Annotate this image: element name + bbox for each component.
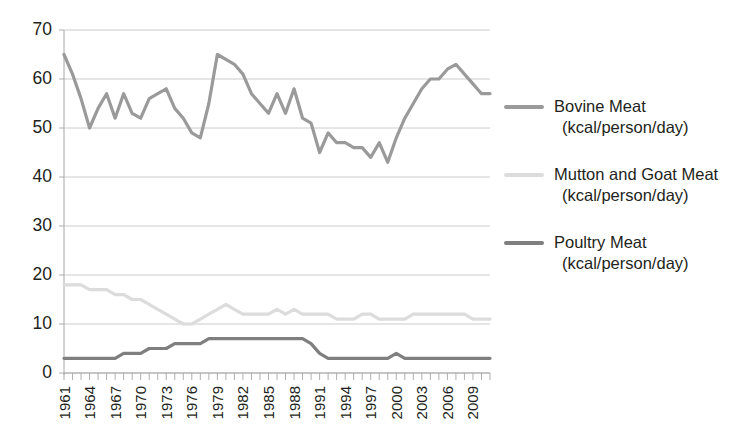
legend-label-mutton-and-goat-meat-name: Mutton and Goat Meat bbox=[554, 165, 718, 183]
x-axis-labels-group: 1961196419671970197319761979198219851988… bbox=[56, 386, 482, 419]
legend-swatch-mutton-and-goat-meat bbox=[504, 173, 544, 177]
y-axis-labels-group: 010203040506070 bbox=[33, 19, 64, 382]
x-axis-tick-label: 1973 bbox=[158, 386, 175, 419]
x-axis-tick-label: 1994 bbox=[337, 386, 354, 419]
y-axis-tick-label: 60 bbox=[33, 68, 53, 88]
legend-label-poultry-meat-unit: (kcal/person/day) bbox=[554, 253, 689, 274]
legend-label-bovine-meat-unit: (kcal/person/day) bbox=[554, 117, 689, 138]
legend-item-bovine-meat: Bovine Meat(kcal/person/day) bbox=[504, 96, 729, 138]
data-series-group bbox=[64, 55, 490, 359]
y-axis-tick-label: 70 bbox=[33, 19, 53, 39]
legend-label-mutton-and-goat-meat-unit: (kcal/person/day) bbox=[554, 185, 718, 206]
x-axis-tick-label: 1997 bbox=[362, 386, 379, 419]
y-axis-tick-label: 30 bbox=[33, 215, 53, 235]
legend-label-bovine-meat: Bovine Meat(kcal/person/day) bbox=[554, 96, 689, 138]
x-axis-tick-label: 1964 bbox=[81, 386, 98, 419]
chart-legend: Bovine Meat(kcal/person/day) Mutton and … bbox=[504, 96, 729, 300]
legend-swatch-bovine-meat bbox=[504, 105, 544, 109]
chart-container: 010203040506070 196119641967197019731976… bbox=[0, 0, 737, 445]
legend-label-bovine-meat-name: Bovine Meat bbox=[554, 97, 646, 115]
x-axis-tick-label: 2003 bbox=[413, 386, 430, 419]
x-axis-tick-label: 2006 bbox=[439, 386, 456, 419]
y-axis-tick-label: 0 bbox=[42, 362, 52, 382]
series-line-bovine-meat bbox=[64, 55, 490, 163]
legend-label-mutton-and-goat-meat: Mutton and Goat Meat(kcal/person/day) bbox=[554, 164, 718, 206]
y-axis-tick-label: 50 bbox=[33, 117, 53, 137]
y-axis-tick-label: 40 bbox=[33, 166, 53, 186]
x-axis-tick-label: 1961 bbox=[56, 386, 73, 419]
y-axis-tick-label: 10 bbox=[33, 313, 53, 333]
legend-item-poultry-meat: Poultry Meat(kcal/person/day) bbox=[504, 232, 729, 274]
x-axis-tick-label: 1988 bbox=[286, 386, 303, 419]
x-axis-tick-label: 1991 bbox=[311, 386, 328, 419]
x-axis-tick-label: 1976 bbox=[183, 386, 200, 419]
x-axis-tick-label: 1985 bbox=[260, 386, 277, 419]
x-axis-tick-label: 2009 bbox=[464, 386, 481, 419]
x-axis-tick-label: 2000 bbox=[388, 386, 405, 419]
y-axis-tick-label: 20 bbox=[33, 264, 53, 284]
legend-label-poultry-meat: Poultry Meat(kcal/person/day) bbox=[554, 232, 689, 274]
x-axis-tick-label: 1967 bbox=[107, 386, 124, 419]
x-axis-tick-label: 1970 bbox=[132, 386, 149, 419]
x-axis-tick-label: 1982 bbox=[234, 386, 251, 419]
series-line-poultry-meat bbox=[64, 339, 490, 359]
series-line-mutton-and-goat-meat bbox=[64, 285, 490, 324]
legend-swatch-poultry-meat bbox=[504, 241, 544, 245]
x-axis-ticks-group bbox=[64, 373, 490, 380]
x-axis-tick-label: 1979 bbox=[209, 386, 226, 419]
legend-label-poultry-meat-name: Poultry Meat bbox=[554, 233, 647, 251]
legend-item-mutton-and-goat-meat: Mutton and Goat Meat(kcal/person/day) bbox=[504, 164, 729, 206]
